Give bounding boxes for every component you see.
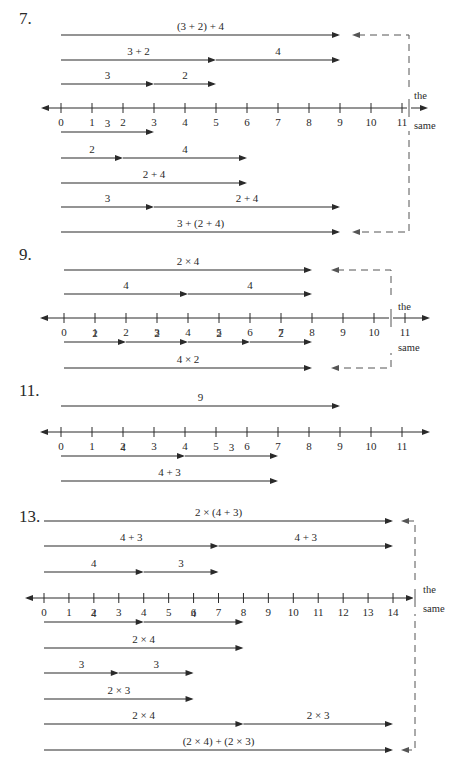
tick-label: 8 [241, 606, 247, 618]
arrow-row: 2 + 4 [61, 168, 247, 186]
tick-label: 10 [366, 116, 378, 128]
tick-label: 2 [123, 326, 129, 338]
arrow-label: 2 [182, 69, 188, 81]
arrow-row: 43 [44, 557, 219, 575]
arrow-label: 2 [154, 327, 160, 339]
tick-label: 10 [366, 440, 378, 452]
arrow-label: 2 [278, 327, 284, 339]
tick-label: 3 [151, 440, 157, 452]
arrow-label: 4 [191, 607, 197, 619]
tick-label: 0 [58, 440, 64, 452]
arrow-row: 33 [44, 658, 194, 676]
arrow-row: 2 × 4 [64, 255, 312, 273]
same-label: same [414, 120, 436, 131]
tick-label: 0 [41, 606, 47, 618]
arrow-label: 2 [89, 143, 95, 155]
tick-label: 1 [89, 440, 95, 452]
arrow-label: 3 [105, 117, 111, 129]
tick-label: 11 [313, 606, 324, 618]
tick-label: 9 [337, 116, 343, 128]
arrow-label: 2 × 4 [132, 709, 155, 721]
tick-label: 4 [182, 116, 188, 128]
tick-label: 4 [182, 440, 188, 452]
problem-13: 13.012345678910111213142 × (4 + 3)4 + 34… [19, 506, 445, 753]
tick-label: 1 [66, 606, 72, 618]
arrow-row: 2 × 3 [44, 684, 194, 702]
arrow-label: 2 × 4 [132, 633, 155, 645]
arrow-row: 9 [61, 391, 340, 409]
problem-number: 11. [19, 381, 40, 400]
tick-label: 9 [340, 326, 346, 338]
arrow-label: 4 + 3 [120, 531, 143, 543]
arrow-label: 3 [105, 192, 111, 204]
arrow-label: 2 × 4 [177, 255, 200, 267]
number-line-axis: 01234567891011 [41, 103, 428, 128]
arrow-row: 3 [61, 117, 154, 135]
arrow-label: 4 [182, 143, 188, 155]
arrow-row: 44 [64, 279, 312, 297]
arrow-label: 3 [178, 557, 184, 569]
arrow-row: 32 [61, 69, 216, 87]
tick-label: 6 [244, 440, 250, 452]
tick-label: 11 [397, 116, 408, 128]
tick-label: 8 [306, 116, 312, 128]
same-label: same [423, 603, 445, 614]
arrow-label: 9 [198, 391, 204, 403]
diagram-svg: 7.01234567891011(3 + 2) + 43 + 24323242 … [0, 0, 460, 769]
arrow-row: 2 × 42 × 3 [44, 709, 393, 727]
number-line-axis: 01234567891011 [40, 313, 430, 338]
arrow-label: 3 [105, 69, 111, 81]
number-line-axis: 01234567891011121314 [25, 593, 414, 618]
arrow-row: 3 + (2 + 4) [61, 217, 340, 235]
arrow-label: (3 + 2) + 4 [177, 20, 225, 33]
arrow-label: 4 [120, 441, 126, 453]
tick-label: 0 [61, 326, 67, 338]
arrow-row: 4 × 2 [64, 353, 312, 371]
problem-11: 11.012345678910119434 + 3 [19, 381, 430, 484]
arrow-label: 2 [216, 327, 222, 339]
tick-label: 14 [388, 606, 400, 618]
arrow-label: 2 × 3 [107, 684, 130, 696]
tick-label: 7 [275, 440, 281, 452]
tick-label: 10 [369, 326, 381, 338]
problem-7: 7.01234567891011(3 + 2) + 43 + 24323242 … [19, 9, 436, 235]
arrow-label: 4 [91, 557, 97, 569]
the-same-bracket: thesame [352, 32, 436, 235]
problem-number: 9. [19, 245, 32, 264]
arrow-label: (2 × 4) + (2 × 3) [183, 735, 255, 748]
tick-label: 11 [400, 326, 411, 338]
arrow-label: 4 + 3 [158, 466, 181, 478]
arrow-label: 3 [153, 658, 159, 670]
arrow-label: 4 [247, 279, 253, 291]
tick-label: 8 [306, 440, 312, 452]
tick-label: 7 [275, 116, 281, 128]
number-line-axis: 01234567891011 [40, 427, 430, 452]
arrow-row: 32 + 4 [61, 192, 340, 210]
arrow-row: 2 × (4 + 3) [44, 506, 393, 524]
tick-label: 6 [244, 116, 250, 128]
tick-label: 4 [185, 326, 191, 338]
tick-label: 5 [213, 116, 219, 128]
tick-label: 3 [151, 116, 157, 128]
problem-number: 7. [19, 9, 32, 28]
the-label: the [414, 90, 427, 101]
problem-9: 9.012345678910112 × 44422224 × 2thesame [19, 245, 430, 371]
tick-label: 4 [141, 606, 147, 618]
same-label: same [398, 342, 420, 353]
number-line-diagrams: 7.01234567891011(3 + 2) + 43 + 24323242 … [0, 0, 460, 769]
tick-label: 1 [89, 116, 95, 128]
arrow-label: 2 + 4 [143, 168, 166, 180]
tick-label: 13 [363, 606, 375, 618]
arrow-row: (2 × 4) + (2 × 3) [44, 735, 393, 753]
tick-label: 12 [338, 606, 349, 618]
arrow-label: 3 [229, 441, 235, 453]
problem-number: 13. [19, 507, 40, 526]
the-same-bracket: thesame [401, 518, 445, 753]
arrow-label: 4 [91, 607, 97, 619]
arrow-label: 2 + 4 [236, 192, 259, 204]
tick-label: 11 [397, 440, 408, 452]
arrow-label: 2 [92, 327, 98, 339]
arrow-label: 3 + (2 + 4) [177, 217, 225, 230]
arrow-label: 2 × (4 + 3) [195, 506, 243, 519]
arrow-label: 3 [79, 658, 85, 670]
